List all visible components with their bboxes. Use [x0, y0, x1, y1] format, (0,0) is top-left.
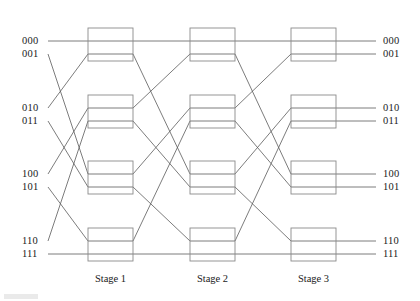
output-label-011: 011 — [383, 116, 399, 127]
switch-box-s1-r2 — [88, 95, 133, 128]
switch-box-s3-r3 — [291, 161, 336, 194]
switch-box-s3-r2 — [291, 95, 336, 128]
output-label-100: 100 — [383, 169, 399, 180]
switch-box-s3-r1 — [291, 28, 336, 61]
input-label-111: 111 — [22, 249, 38, 260]
wire-stage-2-to-stage-3-2-to-1 — [235, 54, 291, 108]
output-label-000: 000 — [383, 36, 399, 47]
stage-label-2: Stage 2 — [173, 274, 253, 285]
switch-box-s1-r1 — [88, 28, 133, 61]
output-label-010: 010 — [383, 103, 399, 114]
wire-stage-1-to-stage-2-1-to-4 — [133, 54, 190, 174]
input-label-110: 110 — [22, 236, 38, 247]
output-label-111: 111 — [383, 249, 399, 260]
wire-stage-2-to-stage-3-4-to-2 — [235, 108, 291, 174]
input-label-000: 000 — [22, 36, 38, 47]
wire-stage-1-to-stage-2-6-to-3 — [133, 121, 190, 241]
switch-box-s2-r1 — [190, 28, 235, 61]
wire-input-to-stage-1-4-to-2 — [48, 108, 88, 174]
wire-stage-1-to-stage-2-4-to-2 — [133, 108, 190, 174]
switch-box-s2-r2 — [190, 95, 235, 128]
wire-stage-2-to-stage-3-6-to-3 — [235, 121, 291, 241]
wire-input-to-stage-1-1-to-4 — [48, 54, 88, 174]
wire-input-to-stage-1-3-to-5 — [48, 121, 88, 187]
wire-stage-2-to-stage-3-5-to-6 — [235, 187, 291, 241]
wire-stage-1-to-stage-2-3-to-5 — [133, 121, 190, 187]
network-diagram: 000001010011100101110111 000001010011100… — [0, 0, 420, 301]
output-label-001: 001 — [383, 49, 399, 60]
switch-boxes-layer — [88, 28, 336, 261]
page-edge-artifact — [4, 294, 38, 299]
wires-layer — [48, 41, 376, 254]
switch-box-s1-r4 — [88, 228, 133, 261]
switch-box-s2-r4 — [190, 228, 235, 261]
wire-input-to-stage-1-6-to-3 — [48, 121, 88, 241]
input-label-101: 101 — [22, 182, 38, 193]
input-label-010: 010 — [22, 103, 38, 114]
wire-input-to-stage-1-2-to-1 — [48, 54, 88, 108]
output-label-101: 101 — [383, 182, 399, 193]
stage-label-1: Stage 1 — [71, 274, 151, 285]
stage-label-3: Stage 3 — [274, 274, 354, 285]
switch-box-s1-r3 — [88, 161, 133, 194]
switch-box-s2-r3 — [190, 161, 235, 194]
wire-input-to-stage-1-5-to-6 — [48, 187, 88, 241]
output-label-110: 110 — [383, 236, 399, 247]
network-svg — [0, 0, 420, 301]
switch-box-s3-r4 — [291, 228, 336, 261]
wire-stage-1-to-stage-2-5-to-6 — [133, 187, 190, 241]
wire-stage-2-to-stage-3-3-to-5 — [235, 121, 291, 187]
wire-stage-1-to-stage-2-2-to-1 — [133, 54, 190, 108]
input-label-001: 001 — [22, 49, 38, 60]
input-label-100: 100 — [22, 169, 38, 180]
input-label-011: 011 — [22, 116, 38, 127]
wire-stage-2-to-stage-3-1-to-4 — [235, 54, 291, 174]
